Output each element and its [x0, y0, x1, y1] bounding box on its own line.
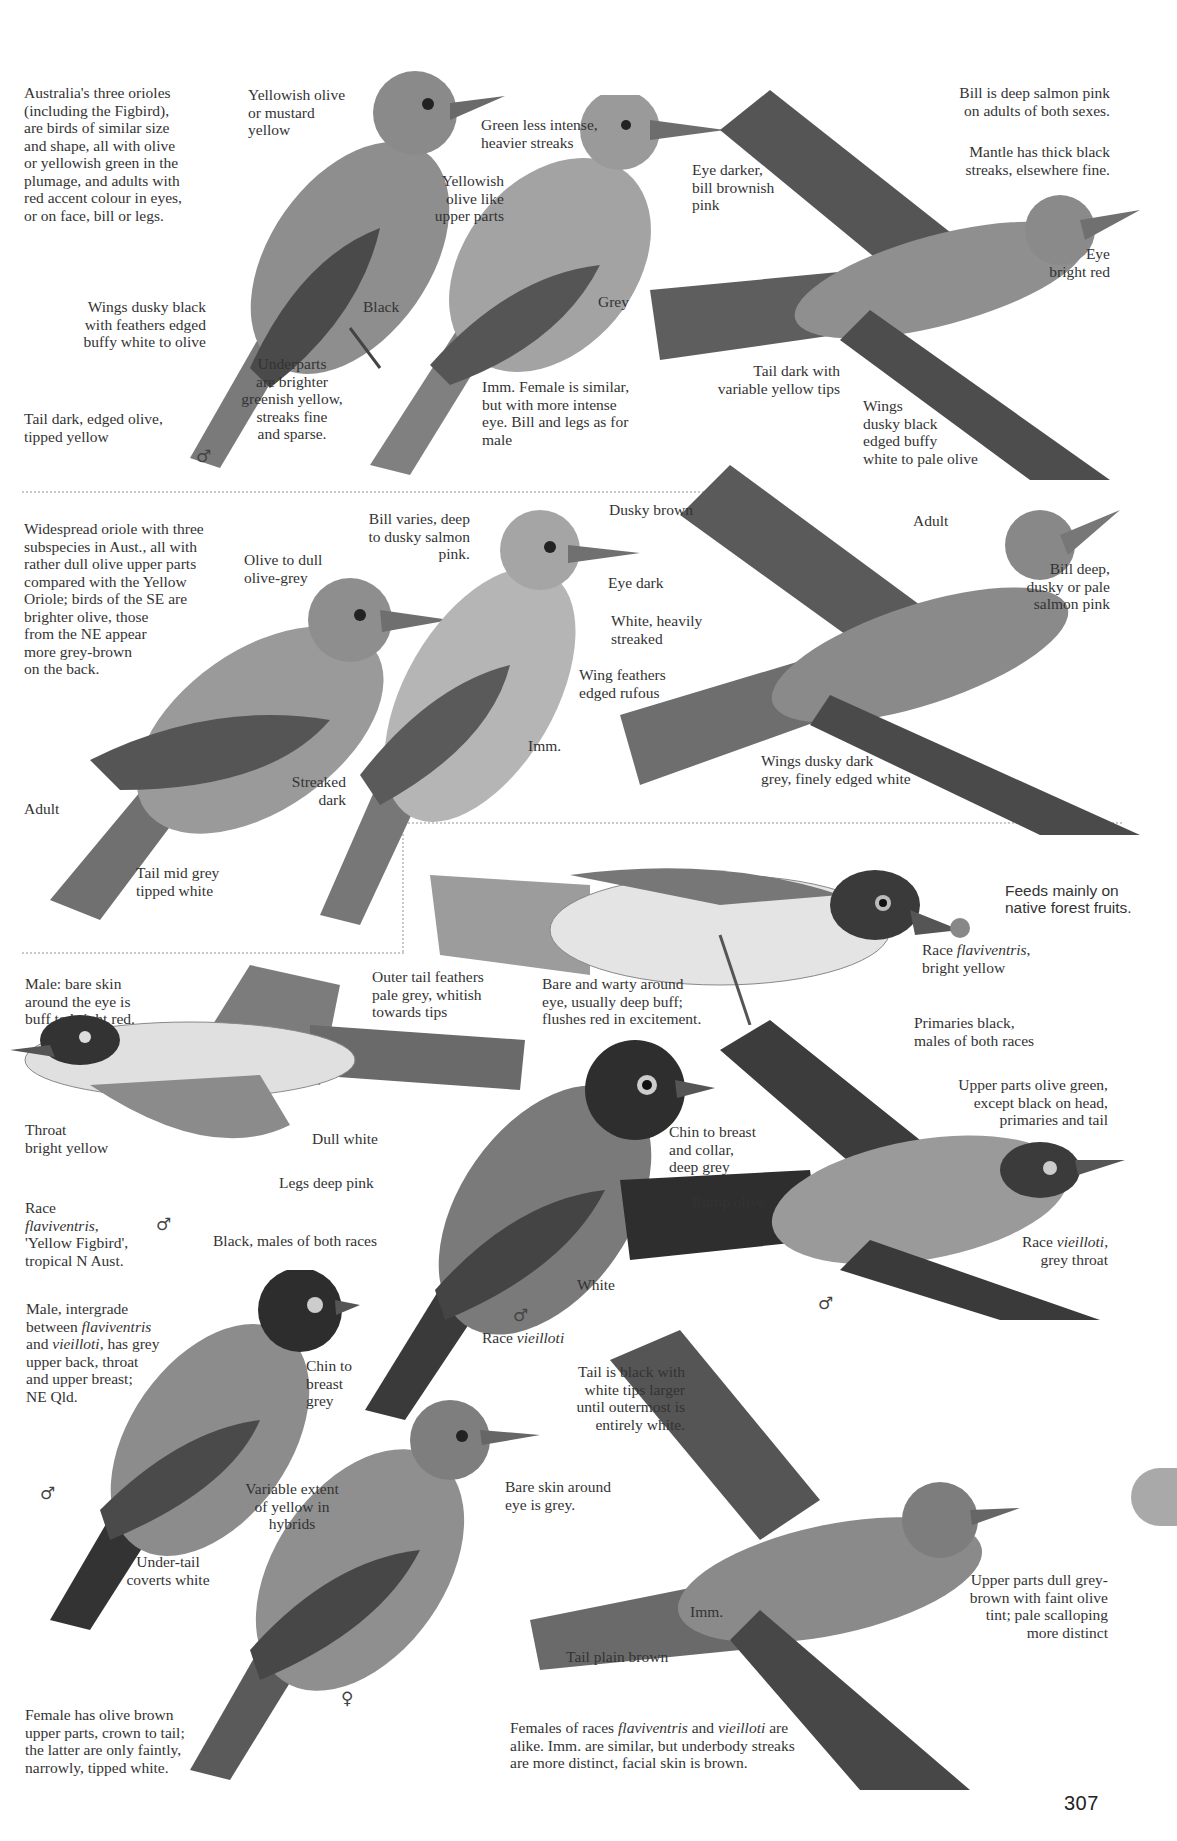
label-dull-white: Dull white [312, 1130, 378, 1148]
label-throat-bright-yellow: Throat bright yellow [25, 1121, 108, 1156]
label-wings-dusky-edged-buffy: Wings dusky black edged buffy white to p… [863, 397, 978, 467]
label-primaries-black: Primaries black, males of both races [914, 1014, 1034, 1049]
label-chin-to-breast-grey: Chin to breast grey [306, 1357, 352, 1410]
race-name: vieilloti [1057, 1233, 1104, 1250]
label-yellowish-olive: Yellowish olive or mustard yellow [248, 86, 345, 139]
label-adult-perched: Adult [24, 800, 59, 818]
label-wings-dusky-dark-grey: Wings dusky dark grey, finely edged whit… [761, 752, 911, 787]
race-prefix: Race [482, 1329, 517, 1346]
label-white-heavily-streaked: White, heavily streaked [611, 612, 702, 647]
label-imm-perched: Imm. [528, 737, 561, 755]
label-upper-parts-olive-green: Upper parts olive green, except black on… [920, 1076, 1108, 1129]
label-black-males-both-races: Black, males of both races [213, 1232, 377, 1250]
male-symbol: ♂ [196, 446, 211, 466]
label-wings-dusky-black: Wings dusky black with feathers edged bu… [46, 298, 206, 351]
male-symbol-flight: ♂ [156, 1214, 171, 1234]
label-eye-bright-red: Eye bright red [1030, 245, 1110, 280]
females-text-1: Females of races [510, 1719, 618, 1736]
label-bare-skin-grey: Bare skin around eye is grey. [505, 1478, 611, 1513]
label-underparts: Underparts are brighter greenish yellow,… [232, 355, 352, 443]
race-name: flaviventris [957, 941, 1027, 958]
field-guide-page: Australia's three orioles (including the… [0, 0, 1177, 1841]
females-text-2: and [688, 1719, 718, 1736]
label-tail-dark-edged: Tail dark, edged olive, tipped yellow [24, 410, 163, 445]
label-rump-olive: Rump olive [692, 1193, 765, 1211]
label-white-underparts: White [577, 1276, 615, 1294]
label-grey-legs: Grey [598, 293, 629, 311]
label-wing-feathers-rufous: Wing feathers edged rufous [579, 666, 666, 701]
label-streaked-dark: Streaked dark [276, 773, 346, 808]
label-tail-dark-yellow-tips: Tail dark with variable yellow tips [700, 362, 840, 397]
label-yellowish-olive-like: Yellowish olive like upper parts [404, 172, 504, 225]
females-race-1: flaviventris [618, 1719, 688, 1736]
label-upper-parts-dull-grey-brown: Upper parts dull grey- brown with faint … [960, 1571, 1108, 1641]
male-symbol-vieilloti: ♂ [513, 1305, 528, 1325]
label-male-intergrade: Male, intergrade between flaviventris an… [26, 1300, 159, 1405]
label-females-races-alike: Females of races flaviventris and vieill… [510, 1719, 795, 1772]
label-black-legs: Black [363, 298, 399, 316]
label-race-flaviventris-bright-yellow: Race flaviventris, bright yellow [922, 941, 1030, 976]
race-name: flaviventris [25, 1217, 95, 1234]
label-tail-black-white-tips: Tail is black with white tips larger unt… [560, 1363, 685, 1433]
label-imm-flight: Imm. [690, 1603, 723, 1621]
label-eye-dark: Eye dark [608, 574, 664, 592]
label-variable-extent-yellow: Variable extent of yellow in hybrids [236, 1480, 348, 1533]
race-name: vieilloti [517, 1329, 564, 1346]
label-legs-deep-pink: Legs deep pink [279, 1174, 374, 1192]
page-number: 307 [1064, 1792, 1099, 1815]
label-race-vieilloti-grey-throat: Race vieilloti, grey throat [980, 1233, 1108, 1268]
intergrade-race-2: vieilloti [52, 1335, 99, 1352]
label-imm-female-similar: Imm. Female is similar, but with more in… [482, 378, 629, 448]
race-prefix: Race [25, 1199, 56, 1216]
bird-illustration-figbird-female [180, 1400, 540, 1780]
feeds-text: Feeds mainly on native forest fruits. [1005, 882, 1132, 917]
females-race-2: vieilloti [718, 1719, 765, 1736]
label-bill-varies: Bill varies, deep to dusky salmon pink. [350, 510, 470, 563]
label-race-yellow-figbird: Race flaviventris, 'Yellow Figbird', tro… [25, 1199, 128, 1269]
label-race-vieilloti: Race vieilloti [482, 1329, 564, 1347]
label-dusky-brown: Dusky brown [609, 501, 693, 519]
label-female-olive-brown: Female has olive brown upper parts, crow… [25, 1706, 185, 1776]
intro-olive-backed-text: Widespread oriole with three subspecies … [24, 520, 204, 678]
intro-orioles-text: Australia's three orioles (including the… [24, 84, 182, 224]
label-tail-mid-grey: Tail mid grey tipped white [136, 864, 219, 899]
label-chin-breast-collar: Chin to breast and collar, deep grey [669, 1123, 756, 1176]
label-outer-tail-feathers: Outer tail feathers pale grey, whitish t… [372, 968, 484, 1021]
label-male-bare-skin: Male: bare skin around the eye is buff t… [25, 975, 135, 1028]
chapter-thumb-tab [1131, 1468, 1177, 1526]
label-tail-plain-brown: Tail plain brown [566, 1648, 668, 1666]
male-symbol-intergrade: ♂ [40, 1483, 55, 1503]
label-feeds-native-fruits: Feeds mainly on native forest fruits. [1005, 864, 1132, 917]
female-symbol: ♀ [341, 1688, 353, 1708]
section-divider-1 [22, 491, 712, 493]
label-olive-to-dull: Olive to dull olive-grey [244, 551, 322, 586]
label-bill-deep-salmon: Bill is deep salmon pink on adults of bo… [930, 84, 1110, 119]
section-divider-2 [22, 952, 404, 954]
label-green-less-intense: Green less intense, heavier streaks [481, 116, 598, 151]
intergrade-text-2: and [26, 1335, 52, 1352]
label-mantle-thick-streaks: Mantle has thick black streaks, elsewher… [930, 143, 1110, 178]
label-bare-warty: Bare and warty around eye, usually deep … [542, 975, 701, 1028]
label-under-tail-coverts: Under-tail coverts white [122, 1553, 214, 1588]
intergrade-race-1: flaviventris [82, 1318, 152, 1335]
label-adult-flight: Adult [913, 512, 948, 530]
race-prefix: Race [922, 941, 957, 958]
male-symbol-vieilloti-flight: ♂ [818, 1293, 833, 1313]
race-prefix: Race [1022, 1233, 1057, 1250]
label-eye-darker: Eye darker, bill brownish pink [692, 161, 774, 214]
label-bill-deep-dusky: Bill deep, dusky or pale salmon pink [1000, 560, 1110, 613]
